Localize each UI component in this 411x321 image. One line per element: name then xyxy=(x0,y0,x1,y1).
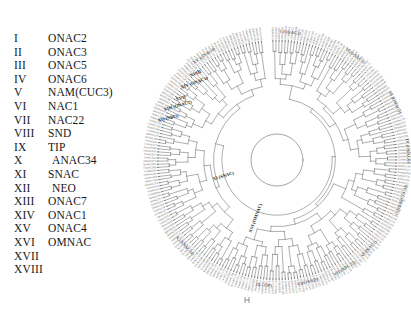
svg-text:PtNAC027: PtNAC027 xyxy=(144,153,157,157)
legend-subfamily-name: ONAC5 xyxy=(48,59,87,73)
legend-item: XVII xyxy=(14,250,144,264)
legend-numeral: X xyxy=(14,154,48,168)
legend-subfamily-name: NAC1 xyxy=(48,100,78,114)
legend-subfamily-name: ANAC34 xyxy=(48,154,97,168)
svg-text:BdNAC115: BdNAC115 xyxy=(275,281,278,294)
legend-numeral: XII xyxy=(14,182,48,196)
legend-subfamily-name: ONAC7 xyxy=(48,195,87,209)
legend-subfamily-name: ONAC1 xyxy=(48,209,87,223)
svg-text:PtNAC026: PtNAC026 xyxy=(278,281,281,293)
legend-subfamily-name: OMNAC xyxy=(48,236,91,250)
legend-item: VII NAC22 xyxy=(14,114,144,128)
legend-item: XII NEO xyxy=(14,182,144,196)
legend-subfamily-name: SNAC xyxy=(48,168,79,182)
circular-phylogenetic-tree: PtNAC119AtNAC155BdNAC041AtNAC126ZmNAC139… xyxy=(143,0,411,321)
legend-item: II ONAC3 xyxy=(14,46,144,60)
legend-numeral: XVII xyxy=(14,250,48,264)
legend-numeral: XVI xyxy=(14,236,48,250)
legend-item: XVIII xyxy=(14,263,144,277)
legend-item: XIV ONAC1 xyxy=(14,209,144,223)
legend-numeral: IX xyxy=(14,141,48,155)
legend-item: IX TIP xyxy=(14,141,144,155)
legend-subfamily-name: NAC22 xyxy=(48,114,84,128)
legend-subfamily-name: SND xyxy=(48,127,71,141)
legend-numeral: XI xyxy=(14,168,48,182)
radial-clade-labels: XVI (OMNAC)XI (SNAC) xyxy=(212,170,263,233)
clade-legend: I ONAC2 II ONAC3 III ONAC5 IV ONAC6 V NA… xyxy=(14,32,144,277)
legend-numeral: II xyxy=(14,46,48,60)
legend-subfamily-name: ONAC6 xyxy=(48,73,87,87)
legend-numeral: VI xyxy=(14,100,48,114)
legend-subfamily-name: ONAC4 xyxy=(48,222,87,236)
legend-item: XIII ONAC7 xyxy=(14,195,144,209)
legend-numeral: XIV xyxy=(14,209,48,223)
legend-item: X ANAC34 xyxy=(14,154,144,168)
svg-text:PtNAC131: PtNAC131 xyxy=(144,156,156,159)
legend-subfamily-name: TIP xyxy=(48,141,66,155)
legend-numeral: VIII xyxy=(14,127,48,141)
legend-subfamily-name: NAM(CUC3) xyxy=(48,86,113,100)
legend-numeral: I xyxy=(14,32,48,46)
legend-subfamily-name: ONAC3 xyxy=(48,46,87,60)
radial-clade-label: XI (SNAC) xyxy=(212,170,235,181)
legend-numeral: V xyxy=(14,86,48,100)
legend-item: XVI OMNAC xyxy=(14,236,144,250)
legend-subfamily-name: NEO xyxy=(48,182,76,196)
legend-item: I ONAC2 xyxy=(14,32,144,46)
legend-item: VIII SND xyxy=(14,127,144,141)
legend-item: IV ONAC6 xyxy=(14,73,144,87)
legend-item: V NAM(CUC3) xyxy=(14,86,144,100)
tree-tip-labels: PtNAC119AtNAC155BdNAC041AtNAC126ZmNAC139… xyxy=(143,25,411,295)
legend-subfamily-name: ONAC2 xyxy=(48,32,87,46)
scale-bar xyxy=(245,297,249,303)
legend-item: XI SNAC xyxy=(14,168,144,182)
tree-canvas: PtNAC119AtNAC155BdNAC041AtNAC126ZmNAC139… xyxy=(143,0,411,321)
legend-numeral: XV xyxy=(14,222,48,236)
legend-numeral: XVIII xyxy=(14,263,48,277)
legend-numeral: VII xyxy=(14,114,48,128)
svg-text:PtNAC119: PtNAC119 xyxy=(271,27,274,39)
legend-item: XV ONAC4 xyxy=(14,222,144,236)
svg-text:MtNAC104: MtNAC104 xyxy=(144,160,157,163)
svg-text:BdNAC084: BdNAC084 xyxy=(143,163,156,166)
legend-numeral: XIII xyxy=(14,195,48,209)
legend-numeral: IV xyxy=(14,73,48,87)
radial-clade-label: XVI (OMNAC) xyxy=(248,202,263,233)
legend-item: III ONAC5 xyxy=(14,59,144,73)
figure-root: I ONAC2 II ONAC3 III ONAC5 IV ONAC6 V NA… xyxy=(0,0,411,321)
legend-numeral: III xyxy=(14,59,48,73)
legend-item: VI NAC1 xyxy=(14,100,144,114)
scale-bar-mark xyxy=(245,297,249,303)
